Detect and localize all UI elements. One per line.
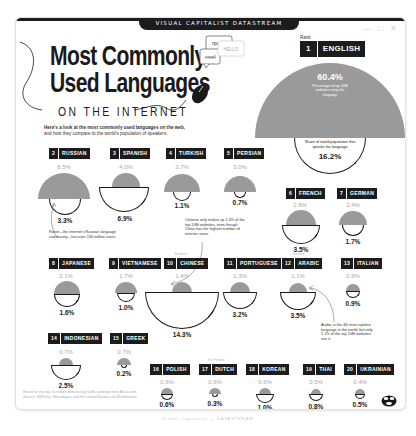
russian-web-pct: 8.5% [57, 164, 71, 170]
dutch-web-pct: 0.6% [208, 379, 222, 385]
greek-pop-semicircle [121, 365, 127, 368]
turkish-pop-pct: 1.1% [175, 202, 190, 209]
turkish-pop-semicircle [173, 192, 191, 201]
badge-persian: 5PERSIAN [224, 148, 264, 159]
italian-pop-pct: 0.9% [346, 300, 361, 307]
spanish-pop-pct: 6.9% [118, 215, 133, 222]
infographic-window: VISUAL CAPITALIST DATASTREAM — □ ✕ Most … [15, 17, 406, 410]
badge-ukrainian: 20UKRAINIAN [344, 364, 394, 375]
russian-web-semicircle [38, 173, 90, 199]
arabic-annotation-arrow [308, 284, 338, 324]
indonesian-web-semicircle [59, 358, 73, 365]
page-caption: Visual Capitalist — DATASTREAM [0, 416, 416, 421]
indonesian-pop-semicircle [51, 365, 81, 380]
chinese-web-pct: 1.4% [175, 273, 189, 279]
arabic-pop-pct: 3.5% [291, 312, 306, 319]
english-web-pct: 60.4% [280, 72, 380, 82]
portuguese-web-pct: 1.3% [233, 273, 247, 279]
badge-arabic: 12ARABIC [282, 258, 322, 269]
chinese-pop-semicircle [145, 292, 219, 329]
dutch-pop-semicircle [212, 394, 218, 397]
german-pop-semicircle [342, 225, 364, 236]
turkish-web-pct: 3.7% [175, 164, 189, 170]
spanish-web-semicircle [112, 173, 140, 187]
close-icon[interactable]: ✕ [390, 25, 397, 33]
badge-korean: 18KOREAN [246, 364, 289, 375]
dutch-note: incl. Flemish [208, 358, 225, 362]
ukrainian-pop-pct: 0.5% [353, 401, 368, 408]
chinese-note: Mandarin [175, 252, 188, 256]
greek-web-semicircle [117, 358, 131, 365]
badge-vietnamese: 9VIETNAMESE [109, 258, 161, 269]
badge-english: 1 ENGLISH [300, 41, 365, 57]
dutch-pop-pct: 0.3% [208, 400, 223, 407]
japanese-web-semicircle [54, 281, 80, 294]
persian-web-pct: 3.0% [233, 164, 247, 170]
persian-pop-pct: 0.7% [233, 199, 248, 206]
german-pop-pct: 1.7% [346, 238, 361, 245]
korean-web-pct: 0.6% [258, 379, 272, 385]
spanish-web-pct: 4.0% [119, 164, 133, 170]
maximize-icon[interactable]: □ [378, 25, 383, 33]
badge-german: 7GERMAN [337, 188, 377, 199]
arabic-annotation: Arabic is the 4th most spoken language i… [321, 323, 373, 341]
intro-text: Here's a look at the most commonly used … [44, 125, 244, 137]
title-line-1: Most Commonly [50, 43, 210, 70]
arabic-web-semicircle [289, 283, 307, 292]
badge-turkish: 4TURKISH [166, 148, 206, 159]
turkish-web-semicircle [164, 174, 200, 192]
arabic-web-pct: 1.1% [291, 273, 305, 279]
badge-russian: 2RUSSIAN [49, 148, 90, 159]
indonesian-pop-pct: 2.5% [59, 382, 74, 389]
thai-web-pct: 0.5% [309, 379, 323, 385]
badge-indonesian: 14INDONESIAN [48, 333, 102, 344]
english-pop-caption: Share of world population that speaks th… [302, 140, 358, 149]
persian-pop-semicircle [234, 192, 246, 198]
badge-greek: 15GREEK [110, 333, 148, 344]
arabic-note: Standard [292, 252, 304, 256]
japanese-pop-semicircle [54, 294, 80, 307]
indonesian-web-pct: 0.7% [59, 349, 73, 355]
rank-label: Rank [300, 35, 311, 40]
badge-chinese: 10CHINESE [164, 258, 208, 269]
english-web-caption: Percentage of top 10M websites using the… [310, 84, 350, 97]
korean-pop-pct: 1.0% [258, 404, 273, 410]
portuguese-pop-pct: 3.2% [233, 311, 248, 318]
badge-portuguese: 11PORTUGUESE [224, 258, 281, 269]
german-web-semicircle [339, 211, 367, 225]
svg-text:नमस्ते: नमस्ते [205, 54, 216, 60]
japanese-pop-pct: 1.6% [60, 309, 75, 316]
persian-web-semicircle [224, 176, 256, 192]
footer-source: Based on the top 10 million websites by … [23, 390, 137, 400]
italian-web-pct: 0.8% [346, 273, 360, 279]
korean-pop-semicircle [256, 394, 274, 403]
minimize-icon[interactable]: — [363, 25, 371, 33]
badge-italian: 13ITALIAN [341, 258, 382, 269]
italian-web-semicircle [346, 284, 360, 291]
chinese-pop-pct: 14.3% [173, 331, 191, 338]
polish-web-pct: 0.6% [160, 379, 174, 385]
title-line-3: ON THE INTERNET [58, 104, 188, 119]
thai-pop-semicircle [309, 394, 323, 401]
thai-pop-pct: 0.8% [309, 403, 324, 410]
ukrainian-pop-semicircle [355, 394, 365, 399]
portuguese-web-semicircle [230, 282, 250, 292]
polish-pop-pct: 0.6% [160, 401, 175, 408]
german-web-pct: 2.4% [346, 202, 360, 208]
chinese-annotation: Chinese only makes up 1.4% of the top 10… [185, 218, 247, 236]
italian-pop-semicircle [346, 291, 360, 298]
polish-pop-semicircle [161, 394, 173, 400]
japanese-web-pct: 2.1% [59, 273, 73, 279]
vietnamese-pop-pct: 1.0% [119, 304, 134, 311]
french-web-pct: 2.8% [293, 202, 307, 208]
vietnamese-pop-semicircle [117, 293, 135, 302]
french-web-semicircle [286, 210, 316, 225]
svg-text:HELLO: HELLO [224, 47, 239, 52]
window-controls: — □ ✕ [363, 25, 397, 33]
visual-capitalist-logo-icon [381, 394, 397, 407]
badge-thai: 19THAI [303, 364, 335, 375]
badge-japanese: 8JAPANESE [49, 258, 94, 269]
ukrainian-web-pct: 0.4% [353, 379, 367, 385]
greek-web-pct: 0.7% [117, 349, 131, 355]
english-pop-pct: 16.2% [302, 152, 358, 161]
